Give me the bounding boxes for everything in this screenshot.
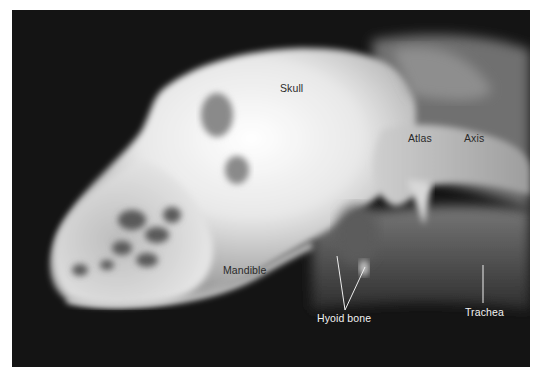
hyoid-pointer-left	[337, 256, 345, 310]
label-hyoid-bone: Hyoid bone	[317, 312, 371, 324]
radiograph-image: Skull Atlas Axis Mandible Hyoid bone Tra…	[12, 10, 530, 367]
pointer-lines	[12, 10, 530, 367]
label-axis: Axis	[464, 132, 484, 144]
hyoid-pointer-right	[345, 267, 365, 310]
label-skull: Skull	[280, 82, 303, 94]
label-trachea: Trachea	[465, 306, 504, 318]
label-mandible: Mandible	[223, 264, 266, 276]
label-atlas: Atlas	[408, 132, 432, 144]
